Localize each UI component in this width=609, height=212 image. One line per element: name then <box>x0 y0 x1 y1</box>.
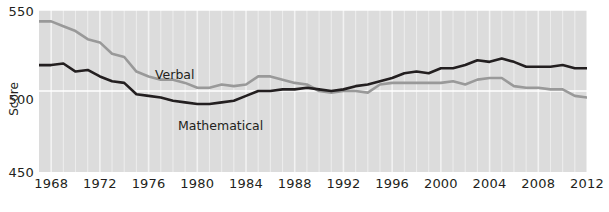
x-tick-label-2004: 2004 <box>473 176 507 191</box>
x-tick-label-2000: 2000 <box>424 176 458 191</box>
series-label-mathematical: Mathematical <box>178 118 263 133</box>
plot-svg <box>39 10 587 172</box>
x-tick-label-1984: 1984 <box>229 176 263 191</box>
x-tick-label-1976: 1976 <box>132 176 166 191</box>
x-axis: 1968197219761980198419881992199620002004… <box>0 176 609 196</box>
x-tick-label-2008: 2008 <box>521 176 555 191</box>
x-tick-label-2012: 2012 <box>570 176 604 191</box>
sat-score-line-chart: Score 550 500 450 Verbal Mathematical 19… <box>0 0 609 212</box>
x-tick-label-1980: 1980 <box>180 176 214 191</box>
x-tick-label-1996: 1996 <box>375 176 409 191</box>
x-tick-label-1968: 1968 <box>34 176 68 191</box>
y-tick-label-550: 550 <box>0 4 34 19</box>
y-tick-label-500: 500 <box>0 92 34 107</box>
plot-area <box>39 10 587 172</box>
x-tick-label-1972: 1972 <box>83 176 117 191</box>
series-label-verbal: Verbal <box>155 67 194 82</box>
x-tick-label-1988: 1988 <box>278 176 312 191</box>
x-tick-label-1992: 1992 <box>326 176 360 191</box>
